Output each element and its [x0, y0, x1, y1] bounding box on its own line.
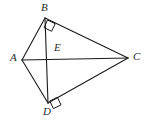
vertex-label-D: D	[43, 106, 51, 117]
diagonal-AC	[22, 58, 128, 60]
segment-CD	[48, 58, 128, 103]
geometry-figure: A B C D E	[0, 0, 146, 121]
quadrilateral-edges	[22, 18, 128, 103]
figure-canvas	[0, 0, 146, 121]
vertex-label-A: A	[10, 52, 17, 63]
vertex-label-B: B	[41, 2, 48, 13]
segment-DA	[22, 60, 48, 103]
segment-AB	[22, 18, 45, 60]
diagonal-BD	[45, 18, 48, 103]
vertex-label-C: C	[133, 51, 140, 62]
vertex-label-E: E	[54, 42, 61, 53]
